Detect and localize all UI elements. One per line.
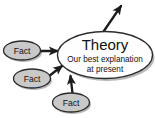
- theory-node-heading: Theory: [82, 36, 129, 53]
- fact-node-3[interactable]: Fact: [53, 93, 90, 112]
- theory-node[interactable]: Theory Our best explanation at present: [58, 32, 153, 79]
- theory-node-subtitle-line-2: at present: [87, 65, 124, 74]
- fact-node-1-label: Fact: [14, 46, 31, 56]
- diagram-root: Theory Our best explanation at present F…: [0, 0, 155, 118]
- fact-node-1[interactable]: Fact: [4, 41, 41, 60]
- diagram-canvas: Theory Our best explanation at present F…: [0, 0, 155, 118]
- theory-node-subtitle-line-1: Our best explanation: [67, 55, 143, 64]
- fact-node-2-label: Fact: [24, 74, 41, 84]
- arrow-theory-outgoing: [102, 6, 122, 35]
- fact-node-2[interactable]: Fact: [14, 69, 51, 88]
- fact-node-3-label: Fact: [63, 98, 80, 108]
